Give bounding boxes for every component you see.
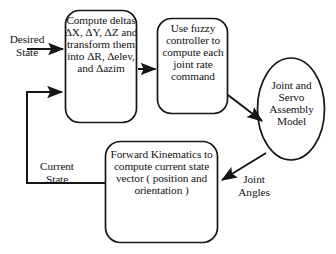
edge-label-joint-angles: Joint Angles bbox=[228, 173, 280, 198]
node-label-joint-servo-assembly: Joint and Servo Assembly Model bbox=[258, 79, 325, 127]
edge-label-current-state: Current State bbox=[30, 160, 84, 185]
node-label-fuzzy-controller: Use fuzzy controller to compute each joi… bbox=[157, 22, 229, 82]
node-label-forward-kinematics: Forward Kinematics to compute current st… bbox=[104, 148, 219, 196]
node-label-compute-deltas: Compute deltas ΔX, ΔY, ΔZ and transform … bbox=[64, 14, 138, 74]
diagram-canvas: Compute deltas ΔX, ΔY, ΔZ and transform … bbox=[0, 0, 336, 254]
edge-label-desired-state: Desired State bbox=[2, 33, 52, 58]
